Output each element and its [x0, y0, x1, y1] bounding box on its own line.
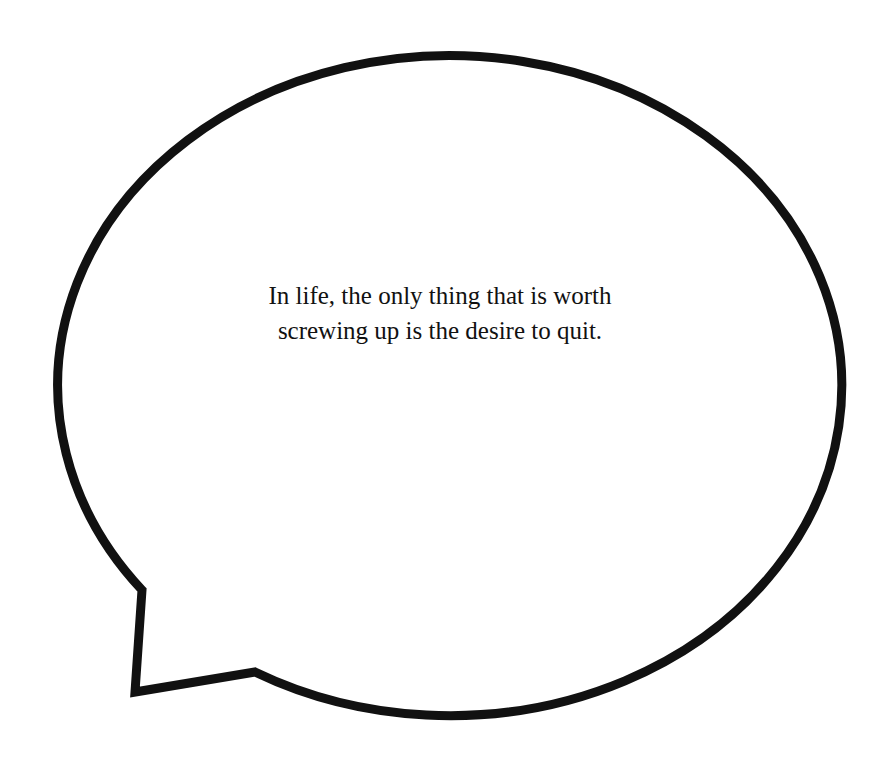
quote-line-2: screwing up is the desire to quit.	[200, 313, 680, 348]
quote-text: In life, the only thing that is worth sc…	[200, 278, 680, 348]
quote-line-1: In life, the only thing that is worth	[200, 278, 680, 313]
speech-bubble-outline	[58, 56, 842, 716]
speech-bubble-shape	[0, 0, 888, 761]
